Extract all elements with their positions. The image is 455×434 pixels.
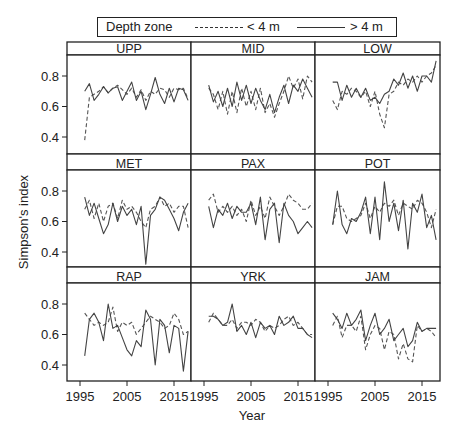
panel-jam bbox=[315, 283, 440, 381]
faceted-line-chart: UPPMIDLOWMETPAXPOTRAPYRKJAM 0.40.60.80.4… bbox=[0, 0, 455, 434]
x-tick-label: 2015 bbox=[408, 389, 437, 404]
y-tick-label: 0.6 bbox=[41, 327, 59, 342]
panel-title: MET bbox=[116, 157, 143, 171]
panel-met bbox=[67, 170, 191, 267]
y-tick-label: 0.8 bbox=[41, 297, 59, 312]
panel-pax bbox=[191, 170, 315, 267]
panel-title: POT bbox=[365, 157, 391, 171]
panel-title: PAX bbox=[241, 157, 266, 171]
panel-grid: UPPMIDLOWMETPAXPOTRAPYRKJAM bbox=[67, 42, 440, 382]
y-axis-label: Simpson's index bbox=[16, 174, 31, 269]
y-tick-label: 0.4 bbox=[41, 245, 59, 260]
y-tick-label: 0.6 bbox=[41, 214, 59, 229]
panel-title: YRK bbox=[240, 270, 266, 284]
x-axis-label: Year bbox=[239, 408, 266, 423]
panel-upp bbox=[67, 55, 191, 154]
x-tick-label: 2005 bbox=[113, 389, 142, 404]
panel-title: UPP bbox=[116, 42, 142, 56]
panel-title: MID bbox=[242, 42, 265, 56]
panel-title: JAM bbox=[365, 270, 390, 284]
y-tick-label: 0.4 bbox=[41, 130, 59, 145]
panel-title: RAP bbox=[116, 270, 142, 284]
x-tick-label: 1995 bbox=[190, 389, 219, 404]
x-tick-label: 1995 bbox=[66, 389, 95, 404]
x-tick-label: 1995 bbox=[314, 389, 343, 404]
y-tick-label: 0.6 bbox=[41, 99, 59, 114]
panel-low bbox=[315, 55, 440, 154]
y-tick-label: 0.8 bbox=[41, 69, 59, 84]
x-tick-label: 2015 bbox=[284, 389, 313, 404]
x-tick-label: 2005 bbox=[361, 389, 390, 404]
x-tick-label: 2005 bbox=[237, 389, 266, 404]
x-tick-label: 2015 bbox=[160, 389, 189, 404]
panel-title: LOW bbox=[363, 42, 392, 56]
y-tick-label: 0.4 bbox=[41, 358, 59, 373]
y-tick-label: 0.8 bbox=[41, 184, 59, 199]
panel-mid bbox=[191, 55, 315, 154]
panel-yrk bbox=[191, 283, 315, 381]
